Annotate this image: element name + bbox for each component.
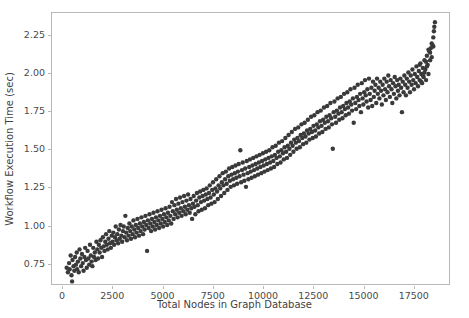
y-axis-label-container: Workflow Execution Time (sec) bbox=[0, 0, 20, 297]
y-tick-label: 1.00 bbox=[24, 221, 45, 231]
x-tick-mark bbox=[213, 286, 214, 289]
x-tick-mark bbox=[263, 286, 264, 289]
x-tick-mark bbox=[414, 286, 415, 289]
y-tick-label: 1.75 bbox=[24, 106, 45, 116]
plot-area bbox=[51, 12, 450, 285]
y-tick-label: 0.75 bbox=[24, 259, 45, 269]
x-axis-label: Total Nodes in Graph Database bbox=[0, 300, 469, 310]
x-tick-mark bbox=[163, 286, 164, 289]
x-tick-mark bbox=[112, 286, 113, 289]
y-tick-label: 2.25 bbox=[24, 30, 45, 40]
x-tick-mark bbox=[364, 286, 365, 289]
y-axis-label: Workflow Execution Time (sec) bbox=[5, 72, 15, 226]
scatter-points-canvas bbox=[52, 13, 451, 286]
y-tick-label: 1.50 bbox=[24, 145, 45, 155]
scatter-plot-figure: Workflow Execution Time (sec) 0.751.001.… bbox=[0, 0, 469, 318]
y-tick-label: 1.25 bbox=[24, 183, 45, 193]
y-tick-label: 2.00 bbox=[24, 68, 45, 78]
x-tick-mark bbox=[313, 286, 314, 289]
x-tick-mark bbox=[62, 286, 63, 289]
